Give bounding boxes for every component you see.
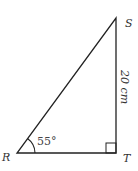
- triangle-diagram: 55° S R T 20 cm: [0, 0, 138, 171]
- right-angle-marker: [106, 143, 116, 153]
- side-st-label: 20 cm: [118, 69, 131, 104]
- triangle-rst: [17, 18, 116, 153]
- vertex-r-label: R: [1, 151, 10, 164]
- angle-arc-r: [28, 139, 36, 154]
- vertex-t-label: T: [123, 152, 132, 165]
- vertex-s-label: S: [125, 17, 133, 30]
- angle-r-label: 55°: [37, 135, 57, 148]
